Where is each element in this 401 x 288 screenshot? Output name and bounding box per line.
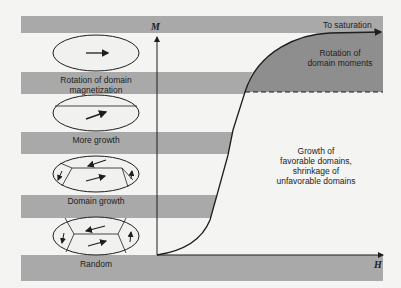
growth-region-label-line2: favorable domains,	[268, 156, 364, 166]
growth-region-label-line4: unfavorable domains	[268, 176, 364, 186]
magnetization-diagram: M H To saturation Rotation of domain mom…	[0, 0, 401, 288]
multi-domain-random-icon	[53, 217, 139, 255]
multi-domain-growing-icon	[53, 156, 139, 192]
gray-bands	[157, 72, 383, 218]
growth-region-label: Growth of favorable domains, shrinkage o…	[268, 146, 364, 186]
rotation-region-label-line2: domain moments	[300, 58, 380, 68]
stage-caption-more-growth: More growth	[46, 135, 146, 145]
stage-caption-rotation: Rotation of domain magnetization	[46, 75, 146, 95]
h-axis-label: H	[374, 259, 382, 270]
growth-region-label-line3: shrinkage of	[268, 166, 364, 176]
m-axis-label: M	[151, 21, 160, 32]
stage-caption-line1: Rotation of domain	[46, 75, 146, 85]
saturation-label: To saturation	[323, 20, 372, 30]
stage-caption-domain-growth: Domain growth	[46, 196, 146, 206]
growth-region-label-line1: Growth of	[268, 146, 364, 156]
stage-caption-line2: magnetization	[46, 85, 146, 95]
rotation-region-label-line1: Rotation of	[300, 48, 380, 58]
rotation-region-label: Rotation of domain moments	[300, 48, 380, 68]
stage-caption-random: Random	[46, 259, 146, 269]
single-domain-aligned-icon	[53, 35, 139, 71]
single-domain-tilted-icon	[53, 95, 139, 131]
